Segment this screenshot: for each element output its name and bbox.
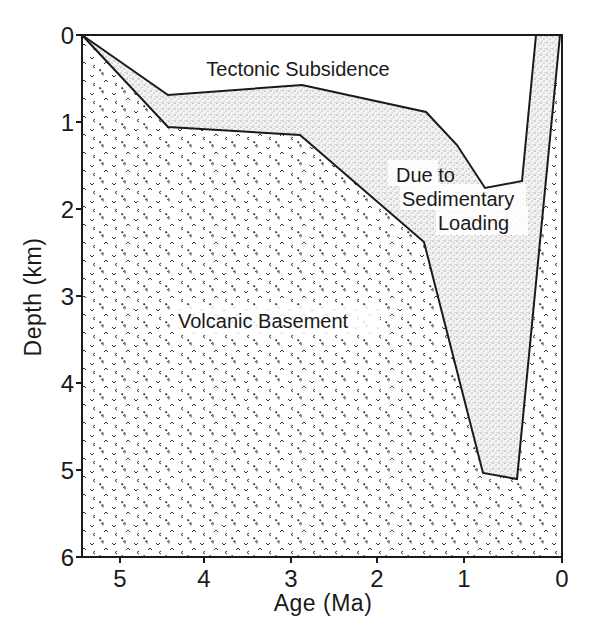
subsidence-chart: 0 1 2 3 4 5 6 5 4 3 2 1 0 Age (Ma) Depth… [0,0,597,633]
y-tick-6: 6 [61,544,74,571]
loading-label-line2: Sedimentary [402,188,514,210]
x-tick-2: 2 [370,565,383,592]
loading-label-line1: Due to [396,164,455,186]
x-tick-1: 1 [457,565,470,592]
y-tick-2: 2 [61,196,74,223]
volcanic-basement-label: Volcanic Basement [178,310,349,332]
x-tick-3: 3 [284,565,297,592]
x-tick-4: 4 [197,565,210,592]
x-tick-5: 5 [113,565,126,592]
y-tick-0: 0 [61,22,74,49]
y-tick-1: 1 [61,109,74,136]
y-tick-3: 3 [61,283,74,310]
x-axis-title: Age (Ma) [274,590,373,616]
y-tick-5: 5 [61,457,74,484]
x-tick-0: 0 [555,565,568,592]
tectonic-subsidence-label: Tectonic Subsidence [206,58,389,80]
y-tick-4: 4 [61,370,74,397]
y-axis-title: Depth (km) [20,238,46,357]
loading-label-line3: Loading [438,212,509,234]
